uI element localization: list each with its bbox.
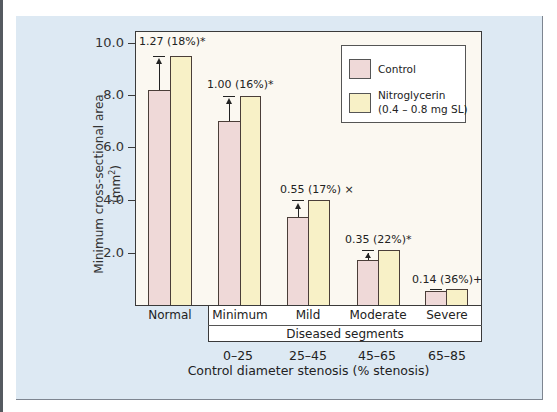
group-label-diseased-segments: Diseased segments [208,327,482,341]
category-label-moderate: Moderate [345,308,411,322]
up-arrow-icon [226,98,232,104]
y-tick-6 [128,147,135,148]
bar-nitroglycerin-severe [446,289,468,305]
bar-control-severe [425,291,447,305]
y-tick-label-2: 2.0 [82,246,124,260]
up-arrow-icon [295,203,301,209]
annotation-moderate: 0.35 (22%)* [345,234,412,246]
y-tick-label-8: 8.0 [82,88,124,102]
annotation-severe: 0.14 (36%)+ [412,274,482,286]
y-tick-label-4: 4.0 [82,193,124,207]
left-edge-line [0,0,3,412]
change-cap-normal [153,56,165,57]
y-tick-2 [128,253,135,254]
annotation-mild: 0.55 (17%) × [280,184,354,196]
legend-label-nitroglycerin: Nitroglycerin [378,89,445,102]
y-tick-10 [128,43,135,44]
bar-control-moderate [357,260,379,305]
change-cap-mild [292,200,304,201]
category-label-minimum: Minimum [212,308,268,322]
category-label-normal: Normal [140,308,200,322]
annotation-minimum: 1.00 (16%)* [207,79,274,91]
change-cap-moderate [362,250,374,251]
y-tick-label-10: 10.0 [82,36,124,50]
group-divider [208,325,482,326]
bar-control-minimum [218,121,241,305]
category-label-severe: Severe [420,308,474,322]
y-tick-8 [128,95,135,96]
up-arrow-icon [156,58,162,64]
x-axis-title: Control diameter stenosis (% stenosis) [135,364,482,378]
change-cap-minimum [223,96,235,97]
annotation-normal: 1.27 (18%)* [139,36,206,48]
legend-label-control: Control [378,63,416,76]
bar-control-normal [148,90,171,305]
range-label-65-85: 65–85 [419,349,475,363]
change-line-minimum [229,101,230,121]
change-line-normal [159,62,160,90]
range-label-45-65: 45–65 [349,349,405,363]
legend-label-dose: (0.4 – 0.8 mg SL) [378,103,468,116]
up-arrow-icon [365,253,371,258]
bar-nitroglycerin-minimum [240,96,261,305]
range-label-0-25: 0–25 [210,349,266,363]
change-cap-severe [430,289,442,290]
bar-control-mild [287,217,309,305]
y-tick-label-6: 6.0 [82,140,124,154]
category-label-mild: Mild [282,308,334,322]
bar-nitroglycerin-normal [170,56,192,305]
bar-nitroglycerin-moderate [378,250,400,305]
range-label-25-45: 25–45 [280,349,336,363]
legend: Control Nitroglycerin (0.4 – 0.8 mg SL) [341,45,466,123]
y-tick-4 [128,200,135,201]
legend-swatch-control [349,59,371,79]
bar-nitroglycerin-mild [308,200,330,305]
legend-swatch-nitroglycerin [349,93,371,113]
